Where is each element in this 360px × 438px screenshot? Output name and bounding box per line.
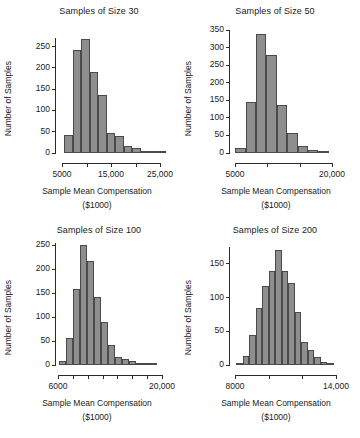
x-tick-label: 20,000 (319, 169, 345, 179)
x-axis-title-line1: Sample Mean Compensation (180, 186, 360, 196)
bars-container (56, 243, 164, 365)
x-tick (332, 163, 333, 167)
x-tick-label: 14,000 (323, 381, 349, 391)
histogram-bar (277, 105, 287, 153)
histogram-bar (246, 102, 256, 153)
histogram-bar (64, 135, 72, 153)
histogram-bar (73, 50, 81, 153)
x-tick (235, 163, 236, 167)
bars-container (230, 30, 334, 153)
histogram-bar (101, 322, 108, 365)
x-tick (235, 375, 236, 379)
histogram-bar (282, 271, 288, 365)
histogram-bar (115, 357, 122, 365)
x-axis-title-line2: ($1000) (180, 412, 360, 422)
plot-area: 0 50 100 150 200 250 (56, 243, 164, 365)
panel-samples-size-30: Samples of Size 30 Number of Samples 0 5… (0, 0, 180, 219)
x-tick (162, 375, 163, 379)
histogram-bar (115, 136, 123, 153)
histogram-bar (266, 55, 276, 153)
histogram-bar (158, 151, 166, 153)
histogram-bar (94, 297, 101, 365)
bars-container (56, 38, 166, 153)
histogram-bar (327, 363, 333, 365)
x-tick-label: 5000 (53, 169, 72, 179)
histogram-bar (150, 363, 157, 365)
histogram-bar (235, 148, 245, 153)
x-tick (269, 375, 270, 379)
panel-samples-size-50: Samples of Size 50 Number of Samples 0 5… (180, 0, 360, 219)
panel-samples-size-100: Samples of Size 100 Number of Samples 0 … (0, 219, 180, 438)
histogram-bar (124, 146, 132, 153)
histogram-bar (108, 345, 115, 365)
x-tick (58, 375, 59, 379)
histogram-bar (81, 39, 89, 153)
histogram-bar (80, 245, 87, 365)
panel-title: Samples of Size 30 (0, 6, 180, 16)
x-axis-title-line2: ($1000) (0, 412, 180, 422)
bars-container (230, 247, 340, 365)
plot-area: 0 50 100 150 200 250 300 350 (230, 30, 334, 153)
panel-title: Samples of Size 50 (180, 6, 360, 16)
histogram-bar (122, 359, 129, 365)
plot-area: 0 50 100 150 200 250 (56, 38, 166, 153)
histogram-bar (149, 151, 157, 153)
histogram-bar (141, 151, 149, 153)
x-tick-label: 6000 (49, 381, 68, 391)
x-axis-title-line2: ($1000) (180, 200, 360, 210)
histogram-bar (143, 363, 150, 365)
histogram-bar (136, 363, 143, 365)
x-axis-title-line1: Sample Mean Compensation (180, 398, 360, 408)
histogram-bar (298, 146, 308, 153)
x-tick (132, 375, 133, 379)
x-tick (267, 163, 268, 167)
histogram-bar (308, 150, 318, 153)
histogram-grid: Samples of Size 30 Number of Samples 0 5… (0, 0, 360, 438)
panel-title: Samples of Size 100 (0, 225, 180, 235)
x-tick-label: 5000 (226, 169, 245, 179)
plot-area: 0 50 100 150 (230, 247, 340, 365)
histogram-bar (73, 289, 80, 365)
x-axis-title-line1: Sample Mean Compensation (0, 186, 180, 196)
x-tick-label: 20,000 (149, 381, 175, 391)
histogram-bar (132, 148, 140, 153)
panel-title: Samples of Size 200 (180, 225, 360, 235)
histogram-bar (107, 133, 115, 153)
x-tick (136, 163, 137, 167)
x-tick (160, 163, 161, 167)
histogram-bar (59, 361, 66, 365)
histogram-bar (66, 338, 73, 365)
x-tick (103, 375, 104, 379)
x-tick (73, 375, 74, 379)
histogram-bar (287, 133, 297, 153)
histogram-bar (87, 261, 94, 365)
histogram-bar (318, 151, 328, 153)
x-tick (147, 375, 148, 379)
x-tick (111, 163, 112, 167)
x-axis-title-line2: ($1000) (0, 200, 180, 210)
x-tick-label: 8000 (226, 381, 245, 391)
x-tick (87, 163, 88, 167)
histogram-bar (129, 361, 136, 365)
x-tick (336, 375, 337, 379)
x-axis-title-line1: Sample Mean Compensation (0, 398, 180, 408)
panel-samples-size-200: Samples of Size 200 Number of Samples 0 … (180, 219, 360, 438)
x-tick (62, 163, 63, 167)
histogram-bar (90, 72, 98, 153)
x-tick (117, 375, 118, 379)
x-tick-label: 15,000 (98, 169, 124, 179)
x-tick (300, 163, 301, 167)
histogram-bar (98, 95, 106, 153)
x-tick (302, 375, 303, 379)
x-tick-label: 25,000 (147, 169, 173, 179)
histogram-bar (256, 34, 266, 153)
x-tick (88, 375, 89, 379)
